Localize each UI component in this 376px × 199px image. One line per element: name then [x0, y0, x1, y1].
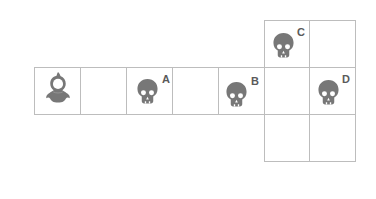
- enemy-label-c: C: [297, 27, 305, 38]
- enemy-label-a: A: [162, 74, 170, 85]
- skull-icon: [225, 81, 248, 108]
- grid-cell-empty[interactable]: [309, 114, 356, 162]
- grid-board: A B C D: [0, 0, 376, 199]
- grid-cell-empty[interactable]: [80, 67, 127, 115]
- enemy-label-b: B: [251, 76, 259, 87]
- grid-cell-empty[interactable]: [264, 67, 310, 115]
- grid-cell-empty[interactable]: [264, 114, 310, 162]
- grid-cell-empty[interactable]: [172, 67, 219, 115]
- hooded-figure-icon: [45, 71, 71, 104]
- skull-icon: [317, 79, 340, 106]
- enemy-label-d: D: [342, 74, 350, 85]
- grid-cell-empty[interactable]: [309, 20, 356, 68]
- skull-icon: [272, 32, 295, 59]
- skull-icon: [136, 78, 159, 105]
